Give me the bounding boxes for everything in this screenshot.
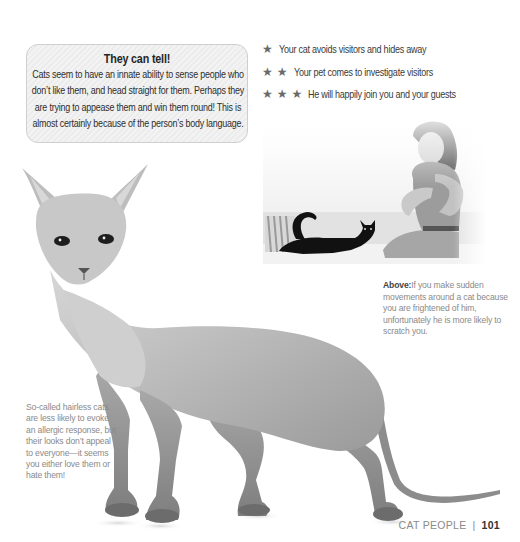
star-group: ★ [262, 43, 273, 55]
star-icon: ★ [277, 88, 288, 100]
rating-key: ★ Your cat avoids visitors and hides awa… [262, 38, 520, 106]
page-number: 101 [482, 519, 500, 531]
cat-head [22, 164, 148, 285]
caption-above: Above:If you make sudden movements aroun… [383, 280, 520, 338]
callout-box: They can tell! Cats seem to have an inna… [26, 44, 248, 143]
star-icon: ★ [277, 66, 288, 78]
page-footer: CAT PEOPLE | 101 [399, 519, 500, 531]
star-icon: ★ [292, 88, 303, 100]
caption-lead: Above: [383, 280, 411, 290]
star-icon: ★ [262, 88, 273, 100]
star-group: ★ ★ ★ [262, 88, 302, 100]
star-icon: ★ [262, 66, 273, 78]
rating-text: He will happily join you and your guests [308, 88, 456, 100]
footer-divider: | [473, 519, 476, 531]
rating-row-three-stars: ★ ★ ★ He will happily join you and your … [262, 83, 520, 106]
rating-text: Your pet comes to investigate visitors [294, 66, 433, 78]
star-icon: ★ [262, 43, 273, 55]
caption-hairless-cats: So-called hairless cats are less likely … [26, 402, 116, 482]
rating-row-one-star: ★ Your cat avoids visitors and hides awa… [262, 38, 520, 61]
section-title: CAT PEOPLE [399, 519, 467, 531]
rating-row-two-stars: ★ ★ Your pet comes to investigate visito… [262, 61, 520, 84]
callout-body: Cats seem to have an innate ability to s… [31, 67, 244, 132]
book-page: They can tell! Cats seem to have an inna… [0, 0, 520, 542]
star-group: ★ ★ [262, 66, 288, 78]
callout-title: They can tell! [48, 52, 227, 67]
rating-text: Your cat avoids visitors and hides away [279, 43, 426, 55]
